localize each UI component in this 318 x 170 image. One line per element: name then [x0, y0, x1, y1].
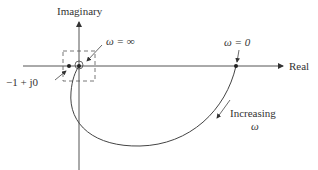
nyquist-curve	[71, 66, 236, 146]
critical-point-label: −1 + j0	[6, 77, 38, 88]
imaginary-axis-label: Imaginary	[57, 6, 102, 17]
omega-inf-arrow	[87, 45, 102, 61]
increasing-arrow	[217, 100, 230, 118]
nyquist-diagram	[0, 0, 318, 170]
critical-point-arrow	[55, 71, 66, 80]
omega-zero-dot	[234, 64, 238, 68]
origin-dot	[77, 64, 81, 68]
increasing-label: Increasing	[230, 108, 276, 119]
omega-zero-arrow	[237, 50, 239, 62]
real-axis-label: Real	[289, 61, 309, 72]
increasing-omega-label: ω	[251, 121, 259, 132]
critical-point-dot	[67, 64, 71, 68]
omega-zero-label: ω = 0	[224, 37, 250, 48]
omega-infinity-label: ω = ∞	[106, 36, 135, 47]
